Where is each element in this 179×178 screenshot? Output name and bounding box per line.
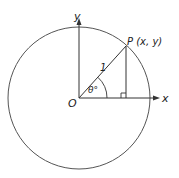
x-axis-arrow-icon [153, 96, 160, 101]
angle-label: θ° [88, 85, 98, 95]
y-axis-label: y [73, 10, 81, 23]
point-label: P (x, y) [127, 36, 162, 47]
origin-label: O [68, 97, 77, 110]
right-angle-marker [121, 93, 126, 98]
x-axis-label: x [161, 92, 169, 105]
angle-arc [98, 77, 107, 98]
radius-label: 1 [100, 62, 106, 73]
unit-circle-diagram: y x O P (x, y) 1 θ° [0, 0, 179, 178]
